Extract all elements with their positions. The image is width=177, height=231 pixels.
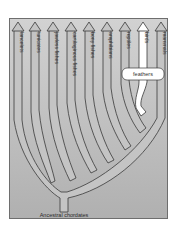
taxon-label-bony-fishes: bony fishes <box>90 32 96 59</box>
taxon-label-birds: birds <box>144 32 150 44</box>
taxon-label-reptiles: reptiles <box>126 32 132 49</box>
root-label: Ancestral chordates <box>40 212 89 218</box>
taxon-label-tunicates: tunicates <box>36 32 42 53</box>
taxon-label-cartilaginous-fishes: cartilaginous fishes <box>72 32 78 77</box>
phylogenetic-tree: lancelets tunicates jawless fishes carti… <box>0 0 177 231</box>
taxon-label-mammals: mammals <box>162 32 168 55</box>
trait-label-feathers: feathers <box>133 71 153 77</box>
taxon-label-amphibians: amphibians <box>108 32 114 59</box>
taxon-label-jawless-fishes: jawless fishes <box>54 31 60 64</box>
taxon-label-lancelets: lancelets <box>19 32 25 53</box>
